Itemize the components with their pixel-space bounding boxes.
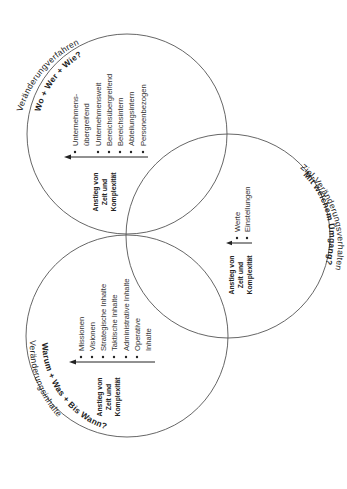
list-item: Strategische Inhalte	[99, 284, 108, 351]
list-item: Taktische Inhalte	[110, 294, 119, 351]
arrow-left-icon	[226, 241, 232, 245]
venn-diagram: Veränderungverfahren Wo + Wer + Wie? Unt…	[0, 0, 347, 489]
list-verfahren: Unternehmens- übergreifend Unternehmensw…	[71, 74, 148, 153]
list-item: Administrative Inhalte	[122, 278, 131, 351]
list-item: Bereichsübergreifend	[105, 74, 114, 146]
svg-text:Anstieg von: Anstieg von	[228, 256, 236, 295]
svg-text:Komplexität: Komplexität	[246, 255, 254, 295]
svg-text:Anstieg von: Anstieg von	[92, 173, 100, 212]
svg-text:Zeit und: Zeit und	[101, 179, 108, 205]
list-item: Visionen	[88, 322, 97, 351]
list-verhalten: Werte Einstellungen	[233, 186, 252, 239]
list-item: Personenbezogen	[139, 84, 148, 146]
list-item: Unternehmens-	[71, 93, 80, 146]
svg-text:Zeit und: Zeit und	[237, 262, 244, 288]
list-item: Operative	[133, 318, 142, 351]
axis-verfahren: Anstieg von Zeit und Komplexität	[64, 155, 148, 212]
svg-text:Komplexität: Komplexität	[114, 377, 122, 417]
svg-text:Anstieg von: Anstieg von	[96, 378, 104, 417]
list-item: übergreifend	[82, 103, 91, 146]
list-item: Werte	[233, 212, 242, 232]
arrow-left-icon	[64, 155, 71, 160]
axis-verhalten: Anstieg von Zeit und Komplexität	[226, 241, 254, 295]
circle-verhalten	[126, 134, 330, 338]
list-item: Bereichsintern	[116, 97, 125, 146]
list-item: Unternehmensweit	[94, 82, 103, 146]
list-item: Inhalte	[144, 328, 153, 351]
arrow-left-icon	[69, 360, 76, 365]
list-item: Missionen	[77, 317, 86, 351]
svg-text:Zeit und: Zeit und	[105, 384, 112, 410]
list-item: Abteilungsintern	[127, 92, 136, 146]
list-item: Einstellungen	[243, 186, 252, 232]
svg-text:Komplexität: Komplexität	[110, 172, 118, 212]
